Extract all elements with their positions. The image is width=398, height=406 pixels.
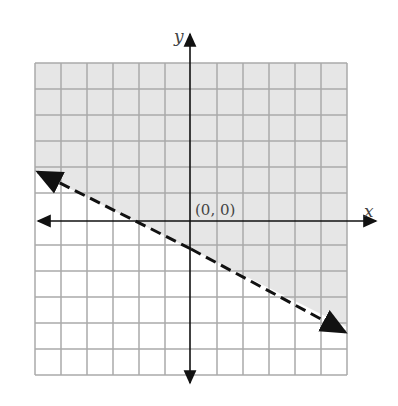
origin-label: (0, 0)	[195, 201, 235, 219]
x-axis-label: x	[364, 201, 374, 221]
graph: x y (0, 0)	[0, 0, 398, 406]
y-axis-label: y	[173, 26, 184, 46]
